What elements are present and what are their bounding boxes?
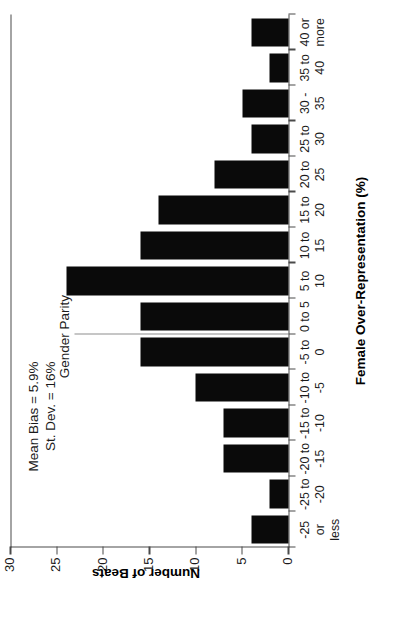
y-axis-tick-label: 0	[279, 547, 294, 621]
histogram-figure: 051015202530 Number of Beats -25orless-2…	[0, 0, 410, 621]
bar	[195, 373, 288, 401]
x-axis-tick-label-line: 0	[312, 314, 327, 389]
x-axis-title: Female Over-Representation (%)	[352, 14, 367, 547]
x-axis-tick	[288, 368, 295, 369]
x-axis-tick	[288, 439, 295, 440]
x-axis-tick	[288, 226, 295, 227]
y-axis-tick-label: 30	[1, 547, 16, 621]
chart-page: 051015202530 Number of Beats -25orless-2…	[0, 0, 410, 621]
x-axis-tick-label: 40 ormore	[297, 0, 327, 69]
bar	[158, 195, 288, 223]
x-axis-tick	[288, 475, 295, 476]
mean-bias-text: Mean Bias = 5.9%	[24, 361, 41, 471]
x-axis-tick	[288, 510, 295, 511]
bar	[269, 480, 288, 508]
x-axis-tick	[288, 155, 295, 156]
bar	[140, 302, 288, 330]
y-axis-tick-label: 25	[47, 547, 62, 621]
x-axis-tick	[288, 13, 295, 14]
x-axis-tick-label-line: 40 or	[297, 0, 312, 69]
stats-annotation: Mean Bias = 5.9% St. Dev. = 16%	[24, 361, 58, 471]
y-axis-tick-label: 15	[140, 547, 155, 621]
x-axis-tick	[288, 84, 295, 85]
bar	[214, 160, 288, 188]
x-axis-tick	[288, 297, 295, 298]
x-axis-tick	[288, 48, 295, 49]
bar	[223, 444, 288, 472]
x-axis-tick	[288, 546, 295, 547]
bar	[269, 53, 288, 81]
bar	[251, 18, 288, 46]
x-axis-tick	[288, 261, 295, 262]
bar	[140, 337, 288, 365]
y-axis-title: Number of Beats	[6, 566, 286, 581]
bar	[251, 515, 288, 543]
gender-parity-label: Gender Parity	[56, 295, 71, 378]
x-axis-tick	[288, 119, 295, 120]
x-axis-tick-label-line: more	[312, 0, 327, 69]
y-axis-tick-label: 20	[94, 547, 109, 621]
x-axis-tick	[288, 333, 295, 334]
rotated-figure-wrapper: 051015202530 Number of Beats -25orless-2…	[0, 0, 410, 621]
bar	[66, 266, 288, 294]
bar	[140, 231, 288, 259]
bar	[251, 124, 288, 152]
gender-parity-leader-line	[74, 333, 288, 334]
y-axis-tick-label: 10	[186, 547, 201, 621]
st-dev-text: St. Dev. = 16%	[41, 361, 58, 471]
bar	[242, 89, 288, 117]
x-axis-tick	[288, 190, 295, 191]
bar	[223, 408, 288, 436]
x-axis-tick	[288, 404, 295, 405]
x-axis-tick-label-line: less	[327, 492, 342, 567]
y-axis-tick-label: 5	[233, 547, 248, 621]
